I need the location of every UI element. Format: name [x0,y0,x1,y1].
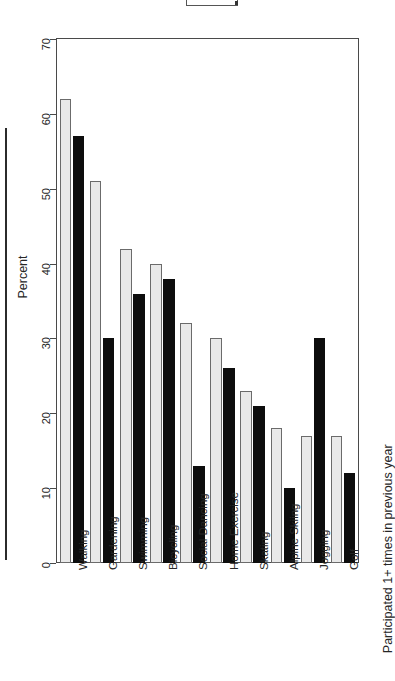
bar [271,428,283,563]
x-axis-category-label: Walking [77,530,89,570]
bar [180,323,192,563]
x-axis-category-label: Skating [258,532,270,570]
x-axis-category-label: Social Dancing [197,493,209,570]
bars-layer [57,39,358,563]
y-axis-title: Percent [16,232,30,322]
legend-tick-icon [235,1,238,5]
bar [331,436,343,563]
bar [301,436,313,563]
y-axis-tick-label: 20 [40,412,52,458]
bar [150,264,162,563]
bar [210,338,222,563]
chart-caption: Participated 1+ times in previous year [381,444,395,653]
x-axis-category-label: Swimming [137,517,149,570]
x-axis-category-label: Golf [348,549,360,570]
bar [73,136,85,563]
y-axis-tick-label: 30 [40,337,52,383]
page-rule-divider [5,128,7,560]
x-axis-category-label: Gardening [107,516,119,570]
x-axis-category-label: Alpine Skiing [288,504,300,570]
x-axis-category-label: Bicycling [167,525,179,570]
y-axis-tick-label: 10 [40,487,52,533]
y-axis-tick-label: 70 [40,38,52,84]
y-axis-tick-label: 50 [40,188,52,234]
bar [163,279,175,563]
bar [120,249,132,563]
bar [90,181,102,563]
x-axis-category-label: Jogging [318,530,330,570]
legend-box [186,0,238,6]
bar [60,99,72,563]
y-axis-tick-label: 0 [40,562,52,608]
x-axis-category-label: Home Exercise [228,492,240,570]
y-axis-tick-label: 40 [40,263,52,309]
y-axis-tick-label: 60 [40,113,52,159]
bar [240,391,252,563]
